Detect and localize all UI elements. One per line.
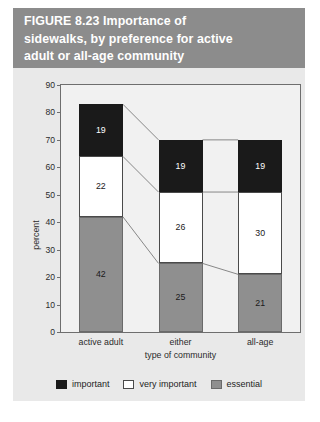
bar-segment-very-important: 30 [238,192,282,274]
y-tick-mark [57,332,61,333]
legend-swatch-very-important [123,380,134,389]
bar-segment-important: 19 [159,140,203,192]
legend-item[interactable]: important [56,379,110,389]
y-tick-mark [57,222,61,223]
y-tick-label: 20 [45,272,55,282]
y-tick-mark [57,250,61,251]
y-tick-mark [57,85,61,86]
y-tick-mark [57,167,61,168]
figure-title-banner: FIGURE 8.23 Importance of sidewalks, by … [13,8,305,68]
bar-value-label: 22 [96,182,106,191]
bar-value-label: 30 [255,229,265,238]
figure-title: FIGURE 8.23 Importance of sidewalks, by … [24,13,295,66]
y-tick-mark [57,305,61,306]
bar-segment-essential: 25 [159,263,203,332]
connector-line [123,104,159,140]
x-tick-label: all-age [247,337,273,347]
bar-group: 213019 [238,85,282,332]
connector-line [203,263,239,274]
x-tick-label: either [169,337,191,347]
x-axis-title: type of community [145,350,216,360]
y-tick-mark [57,195,61,196]
bar-segment-essential: 21 [238,274,282,332]
legend-swatch-essential [211,380,222,389]
x-tick-label: active adult [79,337,124,347]
legend-label: essential [227,379,263,389]
y-tick-label: 70 [45,135,55,145]
plot-inner: 9080706050403020100 422219252619213019 a… [61,85,300,332]
bar-value-label: 19 [176,162,186,171]
connector-line [123,217,159,264]
legend-swatch-important [56,380,67,389]
bar-value-label: 19 [96,126,106,135]
bar-segment-very-important: 26 [159,192,203,263]
bar-value-label: 19 [255,162,265,171]
connector-line [123,156,159,192]
y-tick-mark [57,140,61,141]
bar-value-label: 26 [176,223,186,232]
bar-segment-important: 19 [238,140,282,192]
legend-item[interactable]: essential [211,379,263,389]
bar-segment-very-important: 22 [79,156,123,216]
y-tick-mark [57,277,61,278]
legend-item[interactable]: very important [123,379,196,389]
y-tick-label: 60 [45,162,55,172]
plot-area: 9080706050403020100 422219252619213019 a… [60,84,301,333]
bar-segment-important: 19 [79,104,123,156]
bar-value-label: 21 [255,299,265,308]
y-tick-label: 80 [45,107,55,117]
y-tick-label: 30 [45,245,55,255]
y-tick-label: 40 [45,217,55,227]
bar-value-label: 25 [176,293,186,302]
y-tick-label: 10 [45,300,55,310]
bar-value-label: 42 [96,270,106,279]
bar-group: 252619 [159,85,203,332]
y-tick-mark [57,112,61,113]
y-tick-label: 50 [45,190,55,200]
figure-container: FIGURE 8.23 Importance of sidewalks, by … [0,0,320,422]
legend-label: very important [139,379,196,389]
bar-group: 422219 [79,85,123,332]
y-axis-title: percent [31,220,41,249]
y-tick-label: 90 [45,80,55,90]
bar-segment-essential: 42 [79,217,123,332]
legend-label: important [72,379,110,389]
chart-legend: importantvery importantessential [13,379,305,389]
y-tick-label: 0 [50,327,55,337]
chart-panel: percent 9080706050403020100 422219252619… [13,68,305,401]
